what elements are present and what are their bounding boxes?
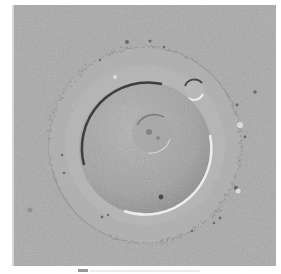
caption-fragment — [78, 269, 88, 272]
micrograph-image — [12, 5, 276, 266]
ooplasm — [79, 82, 211, 215]
oocyte-illustration — [12, 5, 276, 266]
caption-fragment-faint — [90, 270, 200, 272]
polar-body — [184, 79, 204, 100]
frame-edge — [12, 5, 14, 266]
